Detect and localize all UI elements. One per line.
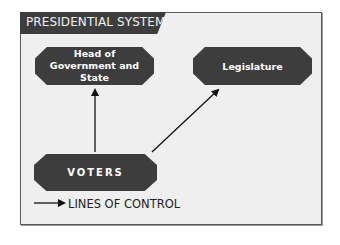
legend-label: LINES OF CONTROL [68,197,180,211]
arrow-voters-to-legislature [152,90,218,152]
